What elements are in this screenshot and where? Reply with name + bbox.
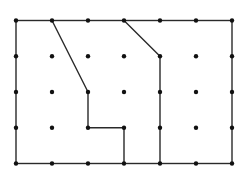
diagram-canvas: [0, 0, 252, 184]
grid-dot: [86, 126, 90, 130]
grid-dot: [158, 126, 162, 130]
grid-dot: [122, 90, 126, 94]
grid-dot: [50, 90, 54, 94]
grid-dot: [14, 18, 18, 22]
grid-dot: [14, 90, 18, 94]
grid-dot: [14, 161, 18, 165]
grid-dot: [86, 54, 90, 58]
grid-dot: [194, 18, 198, 22]
grid-dot: [158, 18, 162, 22]
dot-grid-diagram: [0, 0, 252, 184]
grid-dot: [158, 90, 162, 94]
grid-dot: [50, 54, 54, 58]
grid-dot: [86, 90, 90, 94]
grid-dot: [230, 126, 234, 130]
grid-dot: [158, 54, 162, 58]
grid-dot: [122, 54, 126, 58]
right-region-boundary: [124, 21, 160, 164]
grid-dot: [230, 54, 234, 58]
grid-dot: [230, 18, 234, 22]
grid-dot: [158, 161, 162, 165]
grid-dot: [14, 54, 18, 58]
grid-dot: [122, 161, 126, 165]
grid-dot: [50, 126, 54, 130]
grid-dot: [122, 126, 126, 130]
grid-dot: [194, 161, 198, 165]
grid-dot: [86, 18, 90, 22]
grid-dot: [230, 90, 234, 94]
grid-dot: [50, 18, 54, 22]
grid-dot: [194, 90, 198, 94]
grid-dot: [14, 126, 18, 130]
grid-dot: [194, 54, 198, 58]
grid-dot: [230, 161, 234, 165]
grid-dot: [50, 161, 54, 165]
grid-dot: [122, 18, 126, 22]
grid-dot: [194, 126, 198, 130]
grid-dot: [86, 161, 90, 165]
